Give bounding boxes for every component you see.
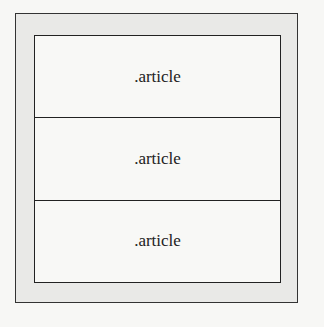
articles-container: .article .article .article (34, 35, 281, 283)
article-label: .article (134, 67, 181, 87)
article-box-2: .article (35, 118, 280, 200)
article-label: .article (134, 231, 181, 251)
article-box-3: .article (35, 201, 280, 282)
article-label: .article (134, 149, 181, 169)
article-box-1: .article (35, 36, 280, 118)
